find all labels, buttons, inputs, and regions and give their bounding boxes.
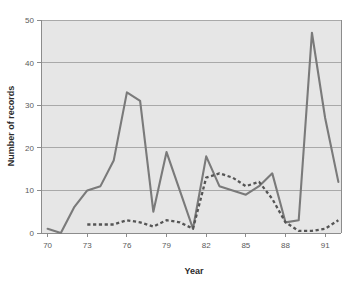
chart-figure: 01020304050 7073767982858891 Number of r… xyxy=(0,0,359,287)
plot-area-background xyxy=(41,20,341,233)
y-tick-label: 20 xyxy=(25,144,34,153)
x-tick-label: 79 xyxy=(162,241,171,250)
x-axis-label: Year xyxy=(184,266,204,276)
line-chart: 01020304050 7073767982858891 Number of r… xyxy=(0,0,359,287)
y-tick-label: 50 xyxy=(25,16,34,25)
y-tick-label: 30 xyxy=(25,101,34,110)
x-tick-label: 70 xyxy=(43,241,52,250)
x-tick-label: 76 xyxy=(122,241,131,250)
x-tick-label: 85 xyxy=(241,241,250,250)
x-tick-label: 91 xyxy=(321,241,330,250)
y-tick-label: 40 xyxy=(25,59,34,68)
y-axis-label: Number of records xyxy=(6,86,16,167)
x-tick-label: 82 xyxy=(202,241,211,250)
x-tick-label: 73 xyxy=(83,241,92,250)
x-tick-label: 88 xyxy=(281,241,290,250)
y-tick-label: 10 xyxy=(25,186,34,195)
y-tick-label: 0 xyxy=(30,229,35,238)
